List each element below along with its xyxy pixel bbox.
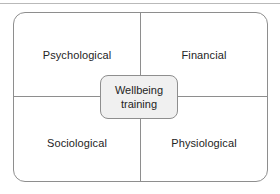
quadrant-psychological: Psychological	[14, 44, 140, 66]
quadrant-physiological: Physiological	[141, 132, 267, 154]
quadrant-financial: Financial	[141, 44, 267, 66]
quadrant-financial-label: Financial	[182, 49, 227, 61]
quadrant-psychological-label: Psychological	[43, 49, 112, 61]
top-divider-rule	[0, 3, 280, 4]
center-node-wellbeing-training: Wellbeing training	[100, 75, 178, 119]
center-node-line-2: training	[121, 97, 157, 111]
center-node-line-1: Wellbeing	[115, 83, 163, 97]
quadrant-physiological-label: Physiological	[171, 137, 237, 149]
quadrant-sociological: Sociological	[14, 132, 140, 154]
diagram-canvas: Psychological Financial Sociological Phy…	[0, 0, 280, 194]
quadrant-sociological-label: Sociological	[47, 137, 107, 149]
